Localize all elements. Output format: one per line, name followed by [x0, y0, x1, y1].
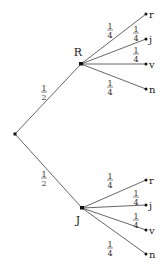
- branch-edge-r: [15, 64, 81, 134]
- root-node-dot: [14, 133, 17, 136]
- leaf-probability: 14: [107, 240, 113, 258]
- fraction-numerator: 1: [133, 25, 138, 34]
- leaf-node-dot: [145, 63, 148, 66]
- leaf-probability: 14: [107, 172, 113, 190]
- leaf-edge-r-n: [81, 64, 146, 89]
- branch-label: J: [75, 214, 80, 227]
- leaf-label: v: [148, 225, 155, 236]
- fraction-numerator: 1: [41, 170, 46, 179]
- fraction-denominator: 2: [41, 179, 46, 188]
- leaf-probability: 14: [107, 79, 113, 97]
- fraction-numerator: 1: [107, 22, 112, 31]
- branch-label: R: [74, 46, 83, 59]
- fraction-numerator: 1: [41, 84, 46, 93]
- branch-node-dot: [80, 206, 84, 210]
- branch-edge-j: [15, 134, 82, 208]
- leaf-label: j: [148, 34, 152, 45]
- leaf-node-dot: [145, 38, 148, 41]
- leaf-node-dot: [145, 204, 148, 207]
- fraction-denominator: 4: [107, 31, 112, 40]
- leaf-node-dot: [145, 13, 148, 16]
- fraction-denominator: 4: [107, 249, 112, 258]
- fraction-numerator: 1: [107, 172, 112, 181]
- fraction-denominator: 4: [107, 88, 112, 97]
- leaf-node-dot: [145, 253, 148, 256]
- fraction-numerator: 1: [107, 240, 112, 249]
- probability-tree: 12r14j14v14n14R12r14j14v14n14J: [0, 0, 165, 267]
- fraction-numerator: 1: [133, 212, 138, 221]
- branch-probability-r: 12: [41, 84, 47, 102]
- fraction-numerator: 1: [133, 189, 138, 198]
- leaf-probability: 14: [133, 189, 139, 207]
- leaf-node-dot: [145, 179, 148, 182]
- fraction-numerator: 1: [107, 79, 112, 88]
- leaf-label: r: [149, 9, 154, 20]
- leaf-probability: 14: [107, 22, 113, 40]
- leaf-label: n: [149, 84, 156, 95]
- branch-probability-j: 12: [41, 170, 47, 188]
- leaf-label: v: [148, 59, 155, 70]
- branch-node-dot: [79, 62, 83, 66]
- fraction-numerator: 1: [133, 46, 138, 55]
- leaf-node-dot: [145, 88, 148, 91]
- fraction-denominator: 4: [133, 34, 138, 43]
- leaf-node-dot: [145, 229, 148, 232]
- fraction-denominator: 4: [107, 181, 112, 190]
- leaf-probability: 14: [133, 46, 139, 64]
- fraction-denominator: 4: [133, 221, 138, 230]
- leaf-probability: 14: [133, 25, 139, 43]
- fraction-denominator: 4: [133, 55, 138, 64]
- fraction-denominator: 4: [133, 198, 138, 207]
- leaf-probability: 14: [133, 212, 139, 230]
- leaf-label: r: [149, 175, 154, 186]
- leaf-label: n: [149, 249, 156, 260]
- fraction-denominator: 2: [41, 93, 46, 102]
- leaf-label: j: [148, 200, 152, 211]
